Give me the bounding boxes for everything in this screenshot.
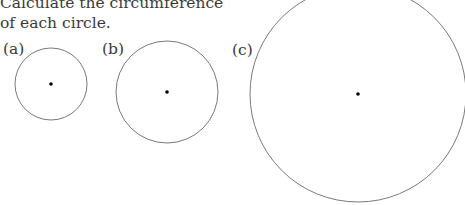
circle-a: [15, 48, 87, 120]
circle-c: [250, 0, 465, 202]
circle-b: [116, 41, 218, 143]
circles-figure: [0, 0, 465, 205]
